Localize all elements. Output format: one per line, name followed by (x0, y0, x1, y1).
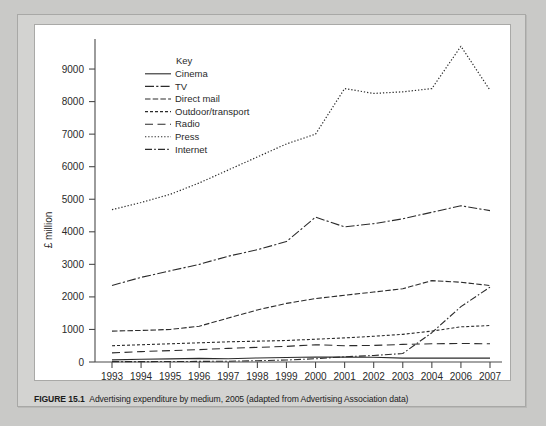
x-tick-label: 2006 (450, 371, 473, 381)
series-line-outdoor-transport (112, 326, 490, 346)
figure-caption: FIGURE 15.1 Advertising expenditure by m… (18, 390, 525, 408)
x-tick-label: 2007 (479, 371, 502, 381)
y-tick-label: 8000 (62, 96, 85, 107)
y-tick-label: 4000 (62, 226, 85, 237)
x-tick-label: 1999 (275, 371, 298, 381)
series-line-direct-mail (112, 281, 490, 331)
x-axis-ticks (112, 362, 490, 368)
y-axis-title: £ million (43, 212, 54, 249)
x-tick-label: 1998 (246, 371, 269, 381)
legend-label-internet: Internet (175, 144, 208, 155)
series-line-press (112, 46, 490, 209)
y-axis-ticks (89, 69, 95, 362)
y-tick-label: 5000 (62, 194, 85, 205)
legend-label-direct-mail: Direct mail (175, 93, 220, 104)
caption-figure-number: FIGURE 15.1 (34, 394, 85, 404)
y-tick-label: 9000 (62, 64, 85, 75)
x-axis-tick-labels: 1993199419951996199719981999200020012002… (101, 371, 502, 381)
series-line-tv (112, 206, 490, 286)
legend-label-radio: Radio (175, 118, 200, 129)
series-line-radio (112, 343, 490, 352)
x-tick-label: 2000 (304, 371, 327, 381)
legend-label-cinema: Cinema (175, 68, 208, 79)
x-tick-label: 1996 (188, 371, 211, 381)
line-chart: 0100020003000400050006000700080009000 19… (35, 25, 511, 381)
legend-label-outdoor-transport: Outdoor/transport (175, 106, 250, 117)
legend-label-tv: TV (175, 81, 188, 92)
y-tick-label: 3000 (62, 259, 85, 270)
caption-line: FIGURE 15.1 Advertising expenditure by m… (34, 394, 408, 404)
y-tick-label: 7000 (62, 129, 85, 140)
chart-panel: 0100020003000400050006000700080009000 19… (34, 24, 511, 381)
x-tick-label: 1993 (101, 371, 124, 381)
legend-label-press: Press (175, 131, 200, 142)
y-axis-tick-labels: 0100020003000400050006000700080009000 (62, 64, 85, 368)
caption-body: Advertising expenditure by medium, 2005 … (89, 394, 408, 404)
y-tick-label: 6000 (62, 161, 85, 172)
series-line-cinema (112, 357, 490, 360)
x-tick-label: 2003 (392, 371, 415, 381)
x-tick-label: 1995 (159, 371, 182, 381)
x-tick-label: 1997 (217, 371, 240, 381)
series-lines (112, 46, 490, 361)
x-tick-label: 2002 (363, 371, 386, 381)
x-tick-label: 2001 (333, 371, 356, 381)
chart-axes (89, 39, 502, 368)
x-tick-label: 2004 (421, 371, 444, 381)
legend-entries: CinemaTVDirect mailOutdoor/transportRadi… (145, 68, 250, 155)
y-tick-label: 1000 (62, 324, 85, 335)
legend-title: Key (176, 55, 193, 66)
x-tick-label: 1994 (130, 371, 153, 381)
y-tick-label: 2000 (62, 291, 85, 302)
figure-frame: 0100020003000400050006000700080009000 19… (17, 14, 526, 407)
chart-legend: Key CinemaTVDirect mailOutdoor/transport… (145, 55, 250, 155)
y-tick-label: 0 (78, 357, 84, 368)
